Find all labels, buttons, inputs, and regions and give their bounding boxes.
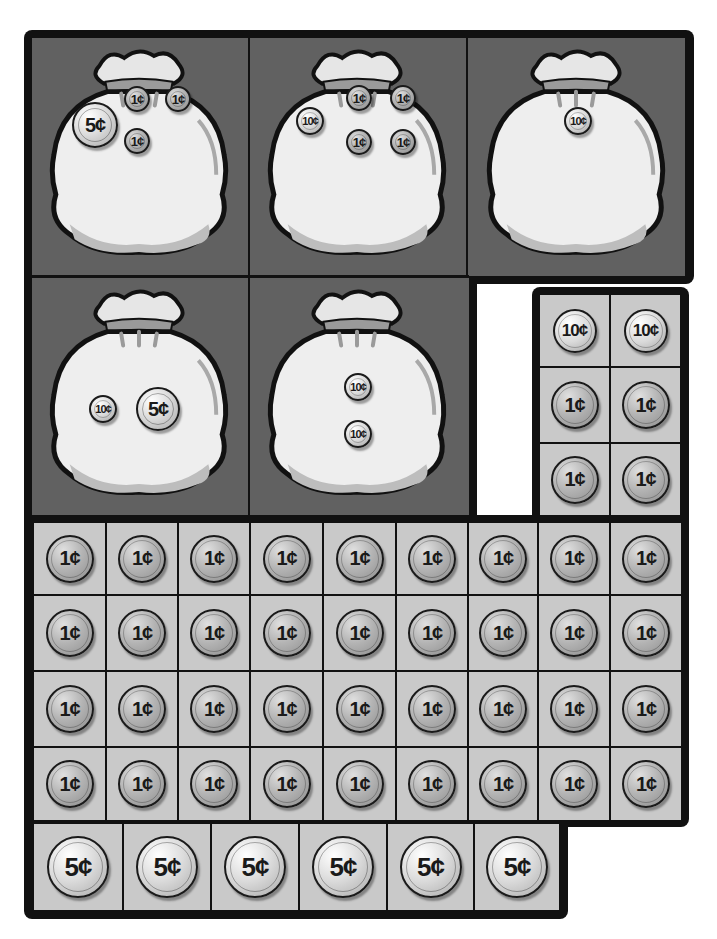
coin-value-label: 1¢ [635, 394, 655, 417]
dime-coin[interactable]: 10¢ [344, 420, 372, 448]
penny-coin[interactable]: 1¢ [622, 760, 670, 808]
penny-coin[interactable]: 1¢ [336, 609, 384, 657]
penny-coin[interactable]: 1¢ [190, 609, 238, 657]
coin-value-label: 1¢ [349, 698, 369, 721]
coin-value-label: 1¢ [131, 134, 143, 149]
penny-coin[interactable]: 1¢ [118, 760, 166, 808]
penny-coin[interactable]: 1¢ [190, 535, 238, 583]
penny-coin[interactable]: 1¢ [479, 535, 527, 583]
dime-coin[interactable]: 10¢ [296, 107, 324, 135]
divider [248, 38, 250, 516]
coin-value-label: 10¢ [562, 321, 587, 341]
penny-coin[interactable]: 1¢ [479, 685, 527, 733]
coin-value-label: 1¢ [564, 547, 584, 570]
coin-value-label: 10¢ [633, 321, 658, 341]
money-bag-icon [477, 45, 675, 260]
dime-coin[interactable]: 10¢ [89, 395, 117, 423]
coin-value-label: 1¢ [204, 547, 224, 570]
dime-coin[interactable]: 10¢ [564, 107, 592, 135]
penny-coin[interactable]: 1¢ [622, 456, 670, 504]
penny-coin[interactable]: 1¢ [118, 609, 166, 657]
penny-coin[interactable]: 1¢ [550, 609, 598, 657]
penny-coin[interactable]: 1¢ [346, 129, 372, 155]
penny-coin[interactable]: 1¢ [622, 685, 670, 733]
penny-coin[interactable]: 1¢ [408, 535, 456, 583]
divider [32, 275, 469, 277]
coin-value-label: 1¢ [636, 698, 656, 721]
divider [466, 38, 468, 276]
penny-coin[interactable]: 1¢ [336, 685, 384, 733]
penny-coin[interactable]: 1¢ [46, 760, 94, 808]
penny-coin[interactable]: 1¢ [165, 86, 191, 112]
penny-coin[interactable]: 1¢ [46, 685, 94, 733]
dime-coin[interactable]: 10¢ [344, 373, 372, 401]
coin-value-label: 1¢ [564, 394, 584, 417]
coin-value-label: 5¢ [417, 852, 444, 883]
money-bag[interactable] [477, 45, 675, 260]
penny-coin[interactable]: 1¢ [408, 685, 456, 733]
penny-coin[interactable]: 1¢ [622, 609, 670, 657]
penny-coin[interactable]: 1¢ [479, 609, 527, 657]
penny-coin[interactable]: 1¢ [190, 760, 238, 808]
coin-value-label: 1¢ [493, 622, 513, 645]
penny-coin[interactable]: 1¢ [550, 535, 598, 583]
nickel-coin[interactable]: 5¢ [224, 836, 286, 898]
coin-value-label: 1¢ [422, 547, 442, 570]
penny-coin[interactable]: 1¢ [390, 85, 416, 111]
nickel-coin[interactable]: 5¢ [136, 387, 180, 431]
penny-coin[interactable]: 1¢ [336, 760, 384, 808]
penny-coin[interactable]: 1¢ [46, 535, 94, 583]
nickel-coin[interactable]: 5¢ [72, 102, 118, 148]
penny-coin[interactable]: 1¢ [124, 86, 150, 112]
coin-value-label: 1¢ [422, 622, 442, 645]
money-bag[interactable] [40, 285, 238, 500]
penny-coin[interactable]: 1¢ [408, 760, 456, 808]
nickel-coin[interactable]: 5¢ [136, 836, 198, 898]
penny-coin[interactable]: 1¢ [263, 685, 311, 733]
penny-coin[interactable]: 1¢ [346, 85, 372, 111]
penny-coin[interactable]: 1¢ [263, 535, 311, 583]
penny-coin[interactable]: 1¢ [551, 456, 599, 504]
coin-value-label: 1¢ [276, 547, 296, 570]
coin-value-label: 1¢ [636, 622, 656, 645]
penny-coin[interactable]: 1¢ [551, 381, 599, 429]
coin-value-label: 1¢ [276, 622, 296, 645]
coin-value-label: 1¢ [422, 698, 442, 721]
coin-value-label: 1¢ [635, 468, 655, 491]
nickel-coin[interactable]: 5¢ [400, 836, 462, 898]
penny-coin[interactable]: 1¢ [408, 609, 456, 657]
coin-value-label: 5¢ [242, 852, 269, 883]
coin-value-label: 1¢ [204, 622, 224, 645]
coin-value-label: 1¢ [59, 773, 79, 796]
penny-coin[interactable]: 1¢ [118, 535, 166, 583]
penny-coin[interactable]: 1¢ [190, 685, 238, 733]
penny-coin[interactable]: 1¢ [390, 129, 416, 155]
penny-coin[interactable]: 1¢ [550, 685, 598, 733]
coin-value-label: 1¢ [349, 547, 369, 570]
coin-value-label: 10¢ [350, 428, 365, 440]
nickel-coin[interactable]: 5¢ [312, 836, 374, 898]
penny-coin[interactable]: 1¢ [479, 760, 527, 808]
penny-coin[interactable]: 1¢ [336, 535, 384, 583]
penny-coin[interactable]: 1¢ [622, 381, 670, 429]
penny-coin[interactable]: 1¢ [263, 760, 311, 808]
penny-coin[interactable]: 1¢ [263, 609, 311, 657]
penny-coin[interactable]: 1¢ [118, 685, 166, 733]
penny-coin[interactable]: 1¢ [46, 609, 94, 657]
nickel-coin[interactable]: 5¢ [47, 836, 109, 898]
coin-value-label: 1¢ [349, 622, 369, 645]
coin-value-label: 1¢ [353, 91, 365, 106]
coin-value-label: 5¢ [154, 852, 181, 883]
coin-value-label: 1¢ [564, 468, 584, 491]
penny-coin[interactable]: 1¢ [622, 535, 670, 583]
dime-coin[interactable]: 10¢ [624, 309, 668, 353]
coin-value-label: 1¢ [493, 773, 513, 796]
penny-coin[interactable]: 1¢ [124, 128, 150, 154]
coin-value-label: 5¢ [148, 398, 168, 421]
penny-coin[interactable]: 1¢ [550, 760, 598, 808]
coin-value-label: 1¢ [493, 698, 513, 721]
dime-coin[interactable]: 10¢ [553, 309, 597, 353]
coin-value-label: 1¢ [636, 773, 656, 796]
coin-value-label: 5¢ [85, 114, 105, 137]
nickel-coin[interactable]: 5¢ [486, 836, 548, 898]
